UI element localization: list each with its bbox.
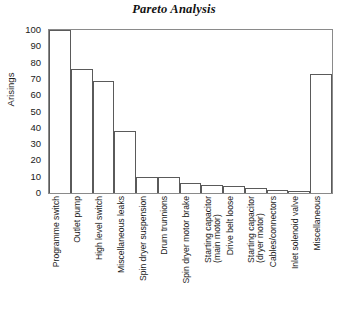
bar [201,185,223,193]
bar [245,188,267,193]
x-tick-label: Miscellaneous [313,196,322,250]
bar [158,177,180,193]
x-tick-label: Drum trunnions [160,196,169,255]
x-tick-label: Starting capacitor (main motor) [204,196,223,263]
y-tick-40: 40 [30,121,41,132]
x-tick-label: Outlet pump [73,196,82,243]
x-tick-label: High level switch [95,196,104,260]
y-tick-90: 90 [30,40,41,51]
x-tick-label: Miscellaneous leaks [117,196,126,273]
x-tick-label: Drive belt loose [226,196,235,255]
bar [267,190,289,193]
x-tick-label: Starting capacitor (dryer motor) [247,196,266,263]
bar [288,191,310,193]
y-tick-10: 10 [30,170,41,181]
y-axis-tick-labels: 0102030405060708090100 [0,29,45,194]
bar [93,81,115,193]
chart-title: Pareto Analysis [0,2,348,17]
y-tick-30: 30 [30,138,41,149]
bar [136,177,158,193]
y-tick-70: 70 [30,72,41,83]
pareto-chart-figure: Pareto Analysis Arisings 010203040506070… [0,0,348,325]
y-tick-0: 0 [36,187,41,198]
y-tick-20: 20 [30,154,41,165]
bar [223,186,245,193]
x-tick-label: Spin dryer motor brake [182,196,191,283]
y-tick-50: 50 [30,105,41,116]
y-tick-80: 80 [30,56,41,67]
y-tick-60: 60 [30,89,41,100]
y-tick-100: 100 [25,24,41,35]
bar [114,131,136,193]
x-tick-label: Spin dryer suspension [139,196,148,281]
bar [71,69,93,193]
x-axis-tick-labels: Programme switchOutlet pumpHigh level sw… [49,196,332,322]
bar [180,183,202,193]
bar [49,30,71,193]
x-tick-label: Cables/connectors [269,196,278,267]
x-tick-label: Programme switch [52,196,61,267]
x-tick-label: Inlet solenoid valve [291,196,300,269]
bar-series [49,30,332,193]
bar [310,74,332,193]
